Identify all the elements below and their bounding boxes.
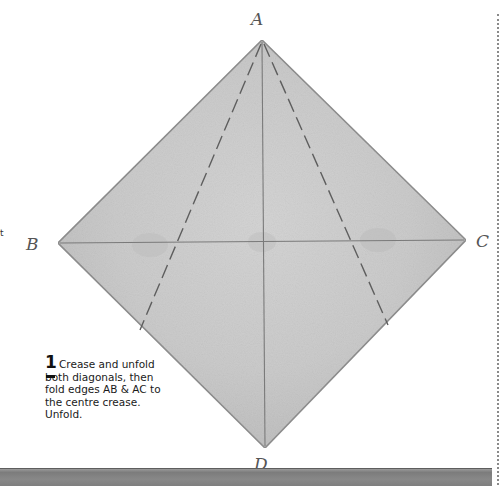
cropped-text-fragment: t [0,229,4,238]
step-number-underline [46,375,55,378]
step-text: Crease and unfold both diagonals, then f… [45,358,175,421]
vertex-label-c: C [476,233,489,250]
page-divider [497,14,499,485]
step-number: 1 [45,354,57,371]
step-instruction: 1 Crease and unfold both diagonals, then… [45,358,175,421]
vertex-label-a: A [251,11,263,28]
page-footer-bar [0,468,492,486]
vertex-label-b: B [26,236,39,253]
